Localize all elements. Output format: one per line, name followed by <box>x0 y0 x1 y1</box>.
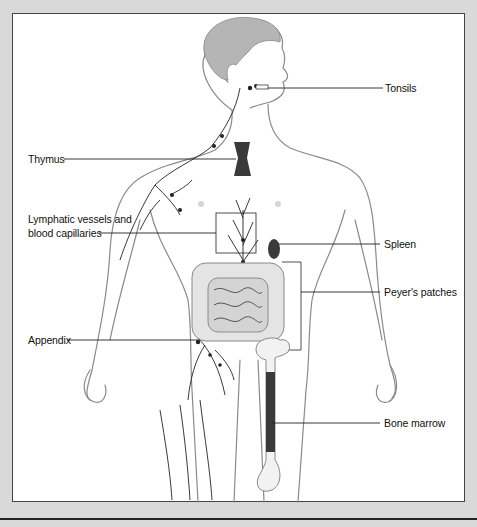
label-lymphatic-line1: Lymphatic vessels and <box>28 213 132 225</box>
femur-bone <box>256 338 290 491</box>
label-lymphatic-line2: blood capillaries <box>28 227 102 239</box>
label-appendix: Appendix <box>28 334 71 346</box>
label-tonsils: Tonsils <box>385 82 416 94</box>
label-thymus: Thymus <box>28 153 65 165</box>
intestines <box>192 263 284 341</box>
thymus-organ <box>234 142 251 176</box>
label-spleen: Spleen <box>384 238 416 250</box>
body-illustration <box>0 0 477 527</box>
spleen-organ <box>268 239 280 259</box>
lymphatic-callout-box <box>216 213 256 253</box>
label-peyers-patches: Peyer's patches <box>384 286 457 298</box>
tonsil-node <box>248 86 252 90</box>
label-bone-marrow: Bone marrow <box>384 417 445 429</box>
